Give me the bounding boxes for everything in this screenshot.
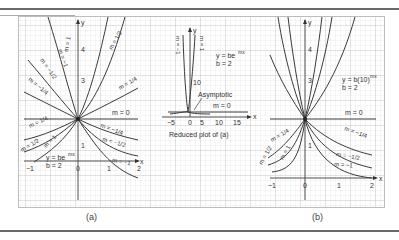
svg-text:Reduced plot of (a): Reduced plot of (a) [169,131,229,139]
svg-text:y: y [193,27,197,35]
svg-text:−1: −1 [268,182,276,189]
svg-text:1: 1 [107,165,111,172]
bottom-rule [0,230,399,232]
svg-text:−1: −1 [26,165,34,172]
caption-a: (a) [86,212,97,222]
svg-text:10: 10 [215,119,223,126]
svg-text:m = 0: m = 0 [112,109,130,116]
svg-text:y = b(10): y = b(10) [342,76,370,84]
svg-text:x: x [140,158,144,165]
svg-text:mx: mx [238,49,245,55]
svg-text:mx: mx [68,151,75,157]
caption-b: (b) [312,212,323,222]
svg-text:0: 0 [188,119,192,126]
svg-text:m = 0: m = 0 [345,109,363,116]
svg-text:m = 0: m = 0 [213,102,231,109]
svg-text:5: 5 [200,119,204,126]
svg-text:1: 1 [81,142,85,149]
svg-text:b = 2: b = 2 [216,60,232,67]
svg-text:4: 4 [308,46,312,53]
svg-text:4: 4 [81,46,85,53]
svg-text:2: 2 [370,182,374,189]
svg-text:0: 0 [303,182,307,189]
svg-text:0: 0 [76,165,80,172]
svg-text:2: 2 [137,165,141,172]
svg-text:3: 3 [308,77,312,84]
svg-text:15: 15 [233,119,241,126]
svg-text:y = be: y = be [46,154,65,162]
svg-text:10: 10 [193,79,201,86]
svg-text:b = 2: b = 2 [46,162,62,169]
svg-text:y: y [81,19,85,27]
svg-text:Asymptotic: Asymptotic [198,91,233,99]
svg-text:b = 2: b = 2 [342,84,358,91]
svg-text:m = −1: m = −1 [175,36,181,55]
svg-text:1: 1 [337,182,341,189]
svg-text:3: 3 [81,77,85,84]
svg-text:m = 1: m = 1 [199,36,205,52]
svg-text:mx: mx [370,73,377,79]
figure-canvas: y x −1 0 1 2 4 3 1 m = 0 y = bemx b = 2 … [0,0,399,240]
svg-text:y = be: y = be [216,52,235,60]
svg-text:x: x [379,175,383,182]
svg-text:1: 1 [308,142,312,149]
svg-text:x: x [253,113,257,120]
svg-text:y: y [308,19,312,27]
svg-text:−5: −5 [167,119,175,126]
